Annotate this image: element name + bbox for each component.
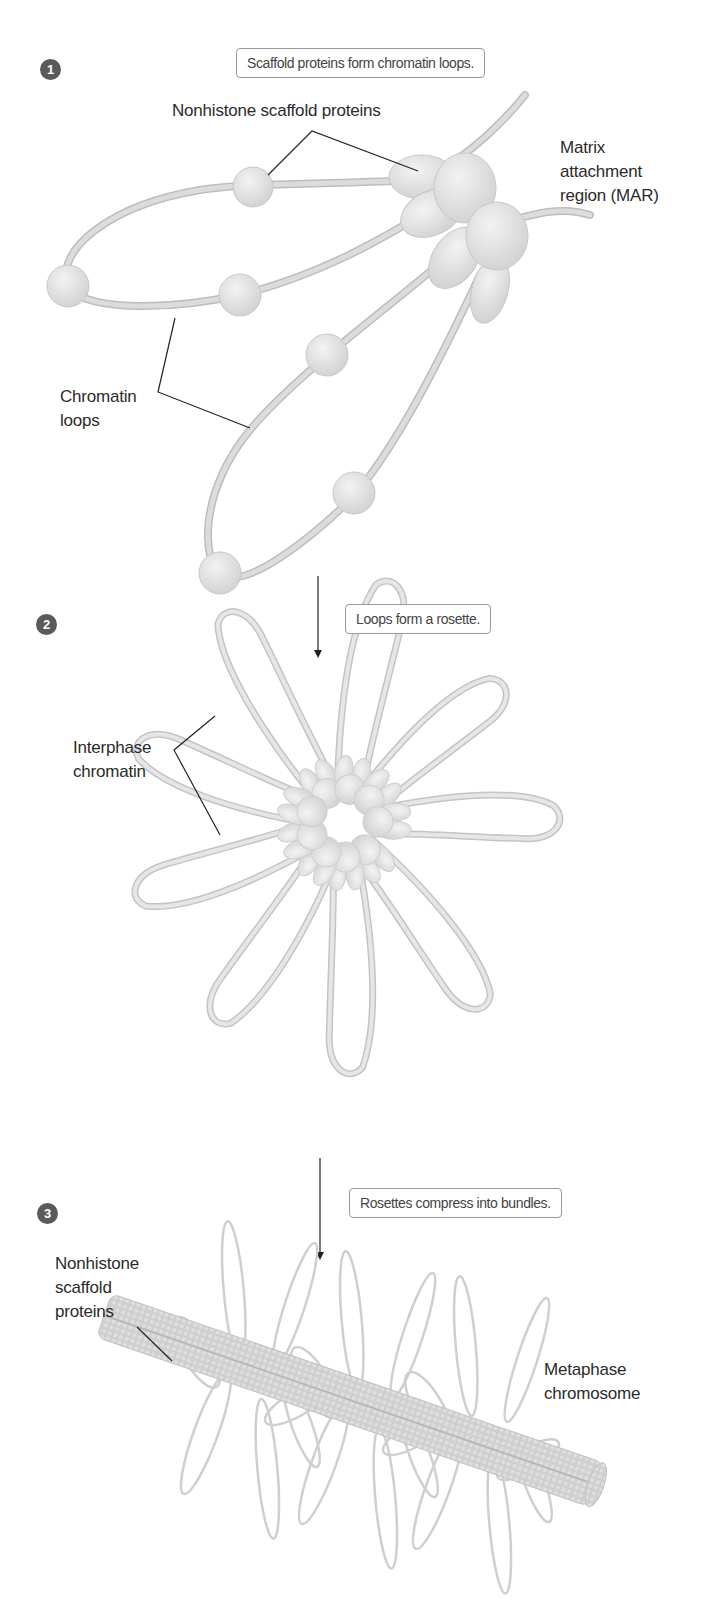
label-metaphase-chromosome: Metaphase chromosome	[544, 1358, 640, 1406]
label-nonhistone-bottom-line3: proteins	[55, 1300, 139, 1324]
metaphase-chromosome-rod	[97, 1294, 611, 1509]
label-chromatin-loops-line2: loops	[60, 409, 137, 433]
label-interphase-chromatin: Interphase chromatin	[73, 736, 151, 784]
label-nonhistone-scaffold-proteins-bottom: Nonhistone scaffold proteins	[55, 1252, 139, 1324]
label-mar-line2: attachment	[560, 160, 659, 184]
label-interphase-line1: Interphase	[73, 736, 151, 760]
label-mar-line3: region (MAR)	[560, 184, 659, 208]
chromatin-compaction-diagram: 1 2 3 Scaffold proteins form chromatin l…	[0, 0, 708, 1623]
label-metaphase-line1: Metaphase	[544, 1358, 640, 1382]
label-nonhistone-bottom-line1: Nonhistone	[55, 1252, 139, 1276]
label-chromatin-loops: Chromatin loops	[60, 385, 137, 433]
step-1-badge: 1	[40, 59, 61, 80]
label-metaphase-line2: chromosome	[544, 1382, 640, 1406]
label-mar-line1: Matrix	[560, 136, 659, 160]
step-3-caption: Rosettes compress into bundles.	[349, 1188, 562, 1218]
step2-leader-lines	[174, 716, 220, 835]
arrow-step1-to-step2	[314, 576, 322, 658]
label-nonhistone-bottom-line2: scaffold	[55, 1276, 139, 1300]
step-2-caption: Loops form a rosette.	[345, 604, 491, 634]
label-interphase-line2: chromatin	[73, 760, 151, 784]
step2-rosette-artwork	[129, 577, 561, 1074]
label-matrix-attachment-region: Matrix attachment region (MAR)	[560, 136, 659, 208]
step-2-badge: 2	[36, 614, 57, 635]
label-chromatin-loops-line1: Chromatin	[60, 385, 137, 409]
step-3-badge: 3	[37, 1203, 58, 1224]
step3-chromosome-artwork	[97, 1220, 611, 1594]
step-1-caption: Scaffold proteins form chromatin loops.	[236, 48, 485, 78]
label-nonhistone-scaffold-proteins: Nonhistone scaffold proteins	[172, 99, 381, 123]
